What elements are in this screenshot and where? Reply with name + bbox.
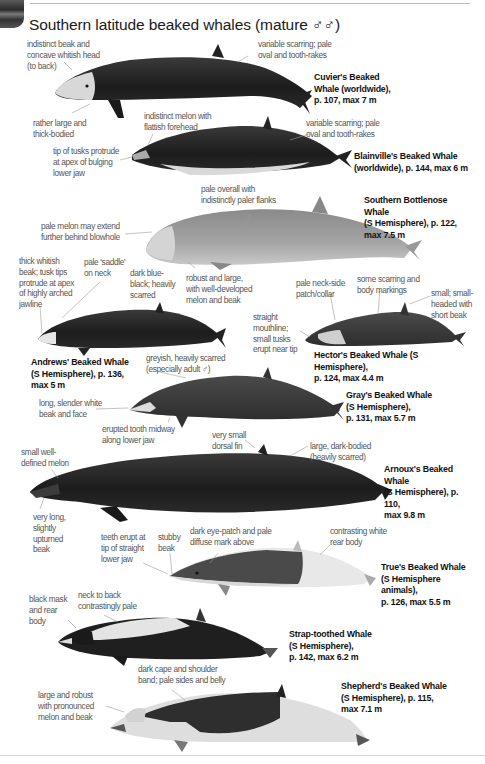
species-label-trues: True's Beaked Whale (S Hemisphere animal… [381,561,475,607]
species-label-strap-toothed: Strap-toothed Whale (S Hemisphere), p. 1… [289,628,372,663]
annotation-blainvilles-scarring: variable scarring; pale oval and tooth-r… [306,118,380,140]
annotation-hectors-scarring: some scarring and body markings [357,274,420,296]
annotation-arnouxs-melon: small well- defined melon [21,447,69,469]
whale-grays [96,367,344,428]
species-label-southern-bottlenose: Southern Bottlenose Whale (S Hemisphere)… [364,194,473,240]
species-label-andrews: Andrews' Beaked Whale (S Hemisphere), p.… [31,356,129,391]
annotation-shepherds-robust: large and robust with pronounced melon a… [38,690,94,722]
annotation-bottlenose-melon: pale melon may extend further behind blo… [41,221,120,243]
annotation-arnouxs-beak: very long, slightly upturned beak [33,512,66,555]
annotation-bottlenose-pale: pale overall with indistinctly paler fla… [201,184,276,206]
annotation-arnouxs-body: large, dark-bodied (heavily scarred) [310,441,371,463]
annotation-andrews-beak: thick whitish beak; tusk tips protrude a… [19,256,74,310]
bottom-rule [0,755,485,756]
annotation-hectors-small: small; small- headed with short beak [431,288,473,320]
field-guide-page: Southern latitude beaked whales (mature … [0,0,485,764]
annotation-shepherds-cape: dark cape and shoulder band; pale sides … [138,664,225,686]
annotation-trues-teeth: teeth erupt at tip of straight lower jaw [101,532,145,564]
annotation-trues-eyepatch: dark eye-patch and pale diffuse mark abo… [190,526,271,548]
annotation-grays-beak: long, slender white beak and face [39,398,102,420]
annotation-trues-beak: stubby beak [158,532,180,554]
annotation-blainvilles-tusks: tip of tusks protrude at apex of bulging… [53,146,119,178]
species-label-blainvilles: Blainville's Beaked Whale (worldwide), p… [354,150,468,173]
annotation-strap-neck: neck to back contrastingly pale [78,590,137,612]
annotation-hectors-mouthline: straight mouthline; small tusks erupt ne… [253,312,297,355]
annotation-andrews-color: dark blue- black; heavily scarred [130,268,175,300]
annotation-grays-tooth: erupted tooth midway along lower jaw [102,424,175,446]
species-label-hectors: Hector's Beaked Whale (S Hemisphere), p.… [314,349,468,384]
annotation-arnouxs-fin: very small dorsal fin [212,430,246,452]
annotation-strap-mask: black mask and rear body [29,594,67,626]
whale-strap-toothed [58,608,278,666]
annotation-andrews-saddle: pale 'saddle' on neck [84,257,125,279]
annotation-bottlenose-robust: robust and large, with well-developed me… [186,273,252,305]
whale-shepherds [106,684,370,752]
species-label-cuviers: Cuvier's Beaked Whale (worldwide), p. 10… [314,71,391,106]
species-label-grays: Gray's Beaked Whale (S Hemisphere), p. 1… [346,389,432,424]
annotation-trues-rear: contrasting white rear body [330,526,387,548]
annotation-cuviers-body: rather large and thick-bodied [33,118,86,140]
annotation-blainvilles-melon: indistinct melon with flattish forehead [144,111,211,133]
annotation-cuviers-scarring: variable scarring; pale oval and tooth-r… [258,39,332,61]
annotation-grays-scarred: greyish, heavily scarred (especially adu… [146,353,225,375]
species-label-arnouxs: Arnoux's Beaked Whale (S Hemisphere), p.… [384,463,475,521]
species-label-shepherds: Shepherd's Beaked Whale (S Hemisphere), … [341,680,447,715]
annotation-hectors-collar: pale neck-side patch/collar [296,278,345,300]
annotation-cuviers-head: indistinct beak and concave whitish head… [27,39,100,71]
